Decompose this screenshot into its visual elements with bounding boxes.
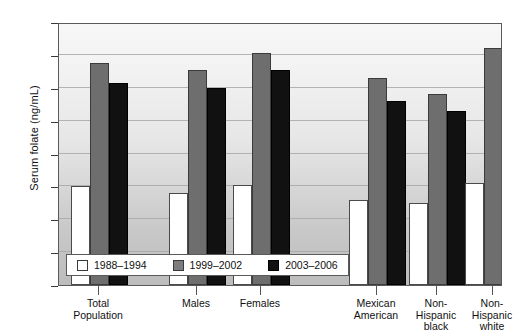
legend-label: 1988–1994 bbox=[94, 259, 147, 271]
x-axis-tick bbox=[376, 286, 377, 295]
y-axis-tick bbox=[51, 122, 58, 123]
y-axis-tick bbox=[51, 89, 58, 90]
x-axis-category-line: Females bbox=[215, 298, 305, 310]
bar bbox=[368, 78, 387, 285]
y-axis-tick bbox=[51, 23, 58, 24]
y-axis-tick bbox=[51, 220, 58, 221]
x-axis-tick bbox=[196, 286, 197, 295]
gray-square-icon bbox=[173, 260, 184, 271]
x-axis-tick bbox=[98, 286, 99, 295]
x-axis-category-line: Non- bbox=[447, 298, 521, 310]
bar bbox=[271, 70, 290, 285]
y-axis-tick bbox=[51, 155, 58, 156]
bar bbox=[409, 203, 428, 285]
legend-item: 1988–1994 bbox=[77, 259, 147, 271]
x-axis-category-line: Total bbox=[53, 298, 143, 310]
y-axis-title: Serum folate (ng/mL) bbox=[28, 18, 40, 258]
bar bbox=[90, 63, 109, 285]
bar bbox=[387, 101, 406, 285]
y-axis-tick bbox=[51, 56, 58, 57]
y-axis-tick bbox=[51, 286, 58, 287]
white-square-icon bbox=[77, 260, 88, 271]
bar bbox=[349, 200, 368, 285]
x-axis-category-line: Population bbox=[53, 310, 143, 322]
x-axis-tick bbox=[492, 286, 493, 295]
x-axis-category-label: Non-Hispanicwhite bbox=[447, 298, 521, 333]
gridline bbox=[59, 54, 501, 55]
x-axis-category-line: white bbox=[447, 321, 521, 333]
bar bbox=[484, 48, 503, 285]
x-axis-category-label: Females bbox=[215, 298, 305, 310]
chart-figure: Serum folate (ng/mL) 0246810121416 Total… bbox=[0, 0, 521, 335]
black-square-icon bbox=[268, 260, 279, 271]
legend-item: 2003–2006 bbox=[268, 259, 338, 271]
legend-label: 2003–2006 bbox=[285, 259, 338, 271]
bar bbox=[428, 94, 447, 285]
x-axis-tick bbox=[436, 286, 437, 295]
bar bbox=[447, 111, 466, 285]
x-axis-category-label: TotalPopulation bbox=[53, 298, 143, 321]
y-axis-tick bbox=[51, 253, 58, 254]
bar bbox=[252, 53, 271, 285]
legend-label: 1999–2002 bbox=[190, 259, 243, 271]
legend-item: 1999–2002 bbox=[173, 259, 243, 271]
plot-area bbox=[58, 23, 502, 286]
chart-legend: 1988–19941999–20022003–2006 bbox=[66, 254, 349, 276]
bar bbox=[188, 70, 207, 285]
x-axis-tick bbox=[260, 286, 261, 295]
bar bbox=[465, 183, 484, 285]
y-axis-tick bbox=[51, 187, 58, 188]
